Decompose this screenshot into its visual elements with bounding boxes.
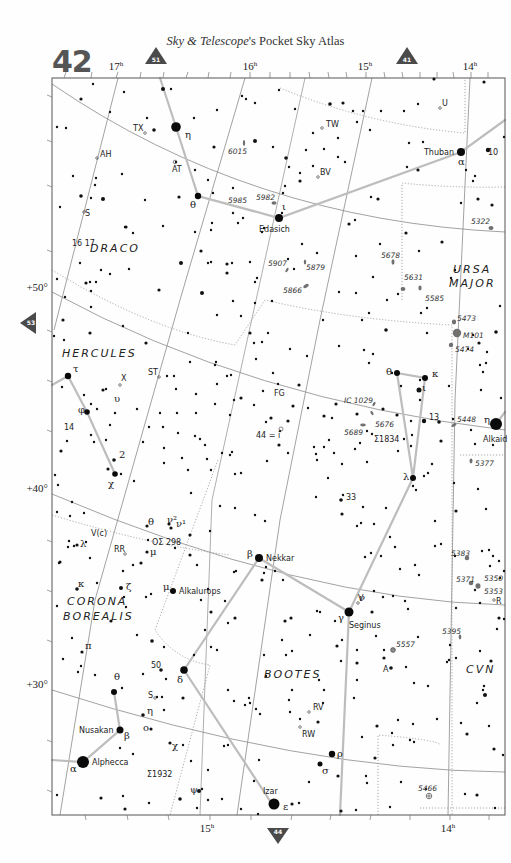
greek-letter-label: θ [114,671,120,682]
constellation-name-draco: DRACO [90,242,140,255]
star-label-alphecca: Alphecca [92,758,129,767]
greek-letter-label: κ [432,368,439,379]
greek-letter-label: φ [78,404,85,415]
greek-letter-label: δ [177,674,183,685]
object-label: RW [302,730,315,739]
nav-page-number: 51 [152,56,160,63]
dec-label: +40° [26,482,48,494]
object-label: AT [172,165,182,174]
ra-label: 14h [463,60,478,72]
nav-to-page-51[interactable]: 51 [145,47,167,64]
object-label: S [85,209,90,218]
greek-letter-label: η [185,129,191,140]
greek-letter-label: σ [322,765,329,776]
greek-letter-label: 2 [119,449,125,460]
greek-letter-label: ι [282,201,286,212]
greek-letter-label: θ [148,516,154,527]
ra-label: 17h [109,60,124,72]
greek-letter-label: θ [386,366,392,377]
nav-page-number: 53 [27,319,35,326]
greek-letter-label: κ [78,578,85,589]
greek-letter-label: π [85,640,92,651]
star-chart: ThubanEdasichAlkaidNekkarSeginusAlkaluro… [0,0,511,863]
catalog-label-5678: 5678 [381,251,400,260]
object-label: U [442,99,448,108]
constellation-name-corona: CORONA [67,595,127,608]
dec-labels: +50°+40°+30° [26,281,48,690]
object-label: Σ1932 [147,770,172,779]
greek-letter-label: ρ [337,748,343,759]
object-label: FG [274,389,285,398]
star-label-alkalurops: Alkalurops [179,587,221,596]
object-label: ST [148,368,158,377]
nav-to-page-41[interactable]: 41 [396,47,418,64]
star-label-nusakan: Nusakan [79,726,114,735]
constellation-name-cvn: CVN [466,663,495,676]
object-label: V [358,594,364,603]
object-label: TX [132,124,144,133]
greek-letter-label: α [70,763,77,774]
constellation-name-ursa: URSA [453,263,491,276]
greek-letter-label: ψ [190,784,198,795]
catalog-label-5676: 5676 [375,420,394,429]
constellation-names: DRACOHERCULESURSAMAJORCORONABOREALISBOOT… [62,242,496,681]
object-label: AH [100,150,112,159]
catalog-label-5473: 5473 [457,314,476,323]
object-label: 44 = i [256,431,280,440]
greek-letter-label: λ [403,471,410,482]
catalog-label-5866: 5866 [283,286,302,295]
catalog-label-5395: 5395 [442,627,461,636]
greek-letter-label: λ [80,538,87,549]
object-label: S [148,691,153,700]
greek-letter-label: η [484,414,490,425]
ra-label: 15h [200,822,215,834]
greek-letter-label: μ [163,581,170,592]
dec-label: +50° [26,281,48,293]
nav-page-number: 41 [403,56,411,63]
object-label: 33 [346,493,356,502]
ra-label: 15h [358,60,373,72]
object-label: Σ1834 [374,435,399,444]
ra-label: 16h [243,60,258,72]
greek-letter-label: υ [114,393,120,404]
object-label: V(c) [91,529,107,538]
object-label: 13 [429,413,439,422]
catalog-label-5474: 5474 [455,345,474,354]
catalog-label-5353: 5353 [484,587,503,596]
field-stars [53,77,505,815]
named-star-labels: ThubanEdasichAlkaidNekkarSeginusAlkaluro… [79,148,507,796]
object-label: 14 [64,423,74,432]
greek-letter-label: χ [108,478,114,489]
atlas-page: Sky & Telescope's Pocket Sky Atlas 42 [0,0,511,863]
nav-to-page-53[interactable]: 53 [20,312,36,334]
catalog-label-5879: 5879 [306,263,325,272]
catalog-label-5689: 5689 [344,428,363,437]
constellation-name-borealis: BOREALIS [63,610,134,623]
catalog-label-5448: 5448 [457,415,476,424]
greek-letter-label: α [458,156,465,167]
greek-letter-label: μ [150,546,157,557]
greek-letter-label: ο [143,722,149,733]
star-label-nekkar: Nekkar [266,554,295,563]
catalog-label-5907: 5907 [268,259,287,268]
greek-letter-label: ζ [126,581,132,592]
constellation-name-major: MAJOR [449,277,496,290]
catalog-label-ic1029: IC 1029 [344,396,373,405]
catalog-label-5383: 5383 [451,549,470,558]
catalog-label-6015: 6015 [228,147,247,156]
object-label: X [121,374,127,383]
object-label: OΣ 298 [152,538,181,547]
greek-letter-label: ε [283,801,288,812]
greek-letter-label: η [147,705,153,716]
dec-label: +30° [26,678,48,690]
greek-letter-label: ν¹ [176,518,186,529]
ra-ticks [47,72,489,820]
catalog-label-5557: 5557 [396,640,415,649]
star-label-thuban: Thuban [423,148,454,157]
greek-letter-label: γ [338,612,344,623]
star-label-seginus: Seginus [349,621,381,630]
object-label: 50 [151,661,161,670]
star-label-alkaid: Alkaid [483,435,507,444]
nav-to-page-44[interactable]: 44 [267,828,289,844]
object-label: TW [325,120,339,129]
